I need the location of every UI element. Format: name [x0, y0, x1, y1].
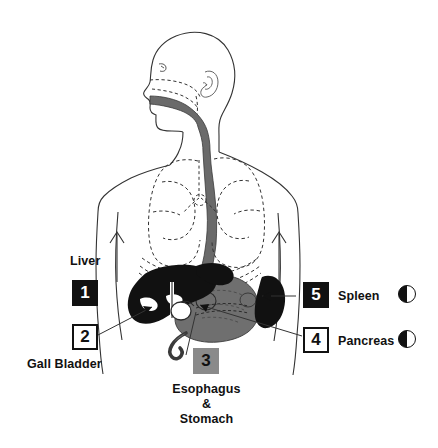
facial-detail [159, 64, 166, 72]
legend-label-stomach: Stomach [159, 412, 254, 427]
legend-box-5[interactable]: 5 [303, 282, 329, 308]
legend-label-spleen: Spleen [338, 289, 380, 304]
ear-icon [201, 71, 218, 97]
spleen [255, 276, 285, 328]
half-filled-circle-icon-spleen [399, 286, 416, 303]
legend-label-gall-bladder: Gall Bladder [27, 357, 102, 372]
torso-outline [96, 152, 300, 375]
diagram-canvas: Liver 1 2 Gall Bladder 3 Esophagus & Sto… [0, 0, 438, 448]
legend-label-pancreas: Pancreas [338, 334, 394, 349]
legend-label-liver: Liver [70, 254, 100, 269]
anatomy-illustration [0, 0, 438, 448]
legend-box-4[interactable]: 4 [303, 327, 329, 353]
swatch-icons [399, 286, 416, 348]
half-filled-circle-icon-pancreas [399, 331, 416, 348]
legend-box-3[interactable]: 3 [193, 348, 219, 374]
legend-box-1[interactable]: 1 [72, 280, 98, 306]
legend-label-ampersand: & [159, 397, 254, 412]
legend-label-esophagus: Esophagus [159, 382, 254, 397]
esophagus [150, 96, 217, 279]
legend-box-2[interactable]: 2 [72, 324, 98, 350]
